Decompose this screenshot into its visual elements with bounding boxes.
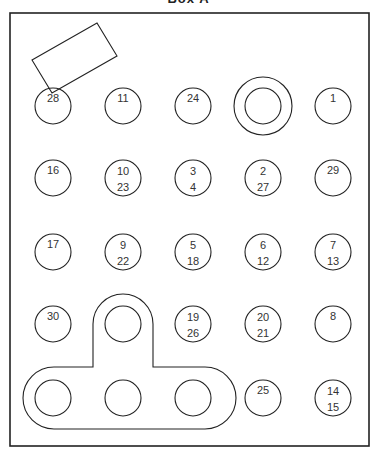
circle-label-top: 9 <box>120 239 126 251</box>
numbered-circle: 922 <box>105 234 141 270</box>
numbered-circle: 28 <box>35 88 71 124</box>
numbered-circle: 29 <box>315 160 351 196</box>
circle-label-bottom: 12 <box>257 255 269 267</box>
circle-label: 8 <box>330 310 336 322</box>
circle-label-top: 3 <box>190 165 196 177</box>
numbered-circle: 2021 <box>245 306 281 342</box>
slanted-rectangle <box>32 23 117 93</box>
double-circle <box>234 77 292 135</box>
numbered-circle: 25 <box>245 380 281 416</box>
circle-label-bottom: 4 <box>190 181 196 193</box>
numbered-circle <box>175 380 211 416</box>
numbered-circle: 8 <box>315 306 351 342</box>
circle-label-top: 7 <box>330 239 336 251</box>
numbered-circle: 518 <box>175 234 211 270</box>
circle-label-bottom: 23 <box>117 181 129 193</box>
circle-label: 30 <box>47 310 59 322</box>
circle-label-bottom: 27 <box>257 181 269 193</box>
numbered-circle <box>105 380 141 416</box>
circle-label-top: 10 <box>117 165 129 177</box>
numbered-circle: 34 <box>175 160 211 196</box>
numbered-circle: 30 <box>35 306 71 342</box>
numbered-circle: 1 <box>315 88 351 124</box>
circle-label-bottom: 13 <box>327 255 339 267</box>
circle-label: 1 <box>330 92 336 104</box>
numbered-circle: 1926 <box>175 306 211 342</box>
numbered-circle: 17 <box>35 234 71 270</box>
numbered-circle <box>105 306 141 342</box>
numbered-circle: 227 <box>245 160 281 196</box>
circle-label-bottom: 22 <box>117 255 129 267</box>
circle-label: 24 <box>187 92 199 104</box>
box-frame <box>10 13 369 446</box>
circle-label-top: 5 <box>190 239 196 251</box>
numbered-circle: 16 <box>35 160 71 196</box>
circle-label-top: 14 <box>327 385 339 397</box>
circle-label: 28 <box>47 92 59 104</box>
numbered-circle <box>35 380 71 416</box>
circle-label-top: 2 <box>260 165 266 177</box>
numbered-circle: 11 <box>105 88 141 124</box>
circle-label-bottom: 15 <box>327 401 339 413</box>
circle-label: 17 <box>47 238 59 250</box>
numbered-circle: 1023 <box>105 160 141 196</box>
circle-label-top: 6 <box>260 239 266 251</box>
numbered-circle: 24 <box>175 88 211 124</box>
circle-label: 11 <box>117 92 128 104</box>
circle-label-bottom: 21 <box>257 327 269 339</box>
circle-label-bottom: 26 <box>187 327 199 339</box>
circle-label-top: 19 <box>187 311 199 323</box>
circle-label: 29 <box>327 164 339 176</box>
circle-label: 16 <box>47 164 59 176</box>
circle-label: 25 <box>257 384 269 396</box>
numbered-circle: 713 <box>315 234 351 270</box>
numbered-circle: 1415 <box>315 380 351 416</box>
box-diagram: 2811241161023342272917922518612713301926… <box>0 0 377 458</box>
circle-label-top: 20 <box>257 311 269 323</box>
numbered-circle: 612 <box>245 234 281 270</box>
circle-label-bottom: 18 <box>187 255 199 267</box>
